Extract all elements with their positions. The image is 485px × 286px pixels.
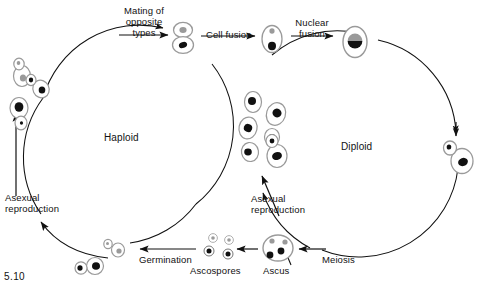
asexual-left-arrow <box>41 222 108 258</box>
straight-arrows <box>16 35 456 265</box>
cycle-arcs <box>23 25 458 257</box>
asexual-reproduction-left-label: Asexual reproduction <box>5 192 59 214</box>
diploid-arc-bottom <box>322 168 458 257</box>
haploid-label: Haploid <box>104 132 139 143</box>
ascospore-dark-1 <box>204 246 214 256</box>
fused-nucleus <box>348 34 363 49</box>
yeast-life-cycle-figure: Mating of opposite types Cell fusion Nuc… <box>0 0 485 286</box>
ascospore-light-2 <box>225 236 234 245</box>
germinated-cell-dark <box>75 258 104 275</box>
ascospores-label: Ascospores <box>190 265 241 276</box>
haploid-arc-bottom <box>130 204 196 243</box>
cell-fusion-label: Cell fusion <box>206 29 251 40</box>
ascospore-dark-2 <box>223 249 233 259</box>
diploid-cell-5 <box>240 141 260 163</box>
mating-pair-cells <box>173 22 194 53</box>
nuclear-fusion-label: Nuclear fusion <box>286 17 338 39</box>
cell-fusion-product <box>262 26 282 53</box>
diploid-label: Diploid <box>341 141 372 152</box>
haploid-cell-dark-lower <box>10 98 28 130</box>
haploid-arc-right <box>196 64 233 204</box>
diploid-cell-2 <box>263 100 288 128</box>
germination-label: Germination <box>139 254 192 265</box>
diploid-arc-right <box>378 40 456 133</box>
ascus-label: Ascus <box>263 265 289 276</box>
diploid-budding-cell-right <box>444 141 474 174</box>
meiosis-label: Meiosis <box>322 254 355 265</box>
asexual-reproduction-right-label: Asexual reproduction <box>251 193 305 215</box>
diploid-cell-3 <box>237 115 259 140</box>
ascus-spore-dark-2 <box>267 252 274 259</box>
zygote-cell <box>343 27 367 58</box>
diploid-cell-cluster <box>237 92 289 168</box>
ascospores-group <box>204 234 233 259</box>
germinated-cell-light <box>104 239 125 257</box>
figure-number: 5.10 <box>4 271 25 282</box>
ascospore-light-1 <box>209 234 218 243</box>
mating-label: Mating of opposite types <box>113 5 175 38</box>
ascus-spore-dark-1 <box>278 248 285 255</box>
life-cycle-diagram-svg <box>0 0 485 286</box>
ascus-spore-light-1 <box>269 238 274 243</box>
haploid-cell-dark-middle <box>26 74 52 100</box>
diploid-cell-6-budding <box>266 135 287 168</box>
ascus-spore-light-2 <box>282 239 287 244</box>
ascus-cell <box>263 235 293 261</box>
diploid-cell-1 <box>245 92 262 113</box>
